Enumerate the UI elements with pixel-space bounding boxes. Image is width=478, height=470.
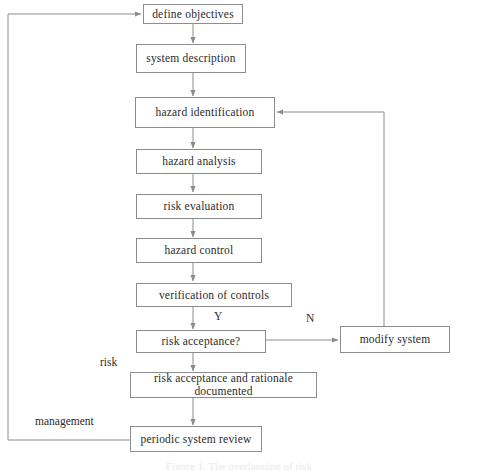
node-label: system description (146, 52, 236, 65)
node-hazard-identification[interactable]: hazard identification (135, 97, 275, 128)
node-risk-evaluation[interactable]: risk evaluation (136, 194, 262, 219)
node-verification-of-controls[interactable]: verification of controls (136, 283, 292, 307)
node-system-description[interactable]: system description (136, 44, 246, 73)
node-periodic-system-review[interactable]: periodic system review (130, 426, 262, 452)
node-hazard-control[interactable]: hazard control (136, 238, 262, 263)
node-label: risk acceptance? (162, 335, 241, 348)
figure-caption: Figure 1. The overlapping of risk (0, 460, 478, 470)
edge-label-management: management (35, 415, 94, 427)
edge-review-to-define (8, 14, 141, 440)
edge-label-yes: Y (214, 310, 222, 322)
node-define-objectives[interactable]: define objectives (143, 4, 243, 24)
node-hazard-analysis[interactable]: hazard analysis (136, 149, 262, 174)
node-risk-acceptance-documented[interactable]: risk acceptance and rationale documented (130, 372, 317, 398)
node-label: modify system (360, 333, 431, 346)
node-label: hazard identification (155, 106, 254, 119)
node-modify-system[interactable]: modify system (340, 326, 450, 353)
flowchart-canvas: define objectives system description haz… (0, 0, 478, 470)
edge-modify-to-hazard-id (277, 112, 384, 326)
node-label: hazard analysis (162, 155, 236, 168)
edge-label-risk: risk (100, 356, 117, 368)
node-label: verification of controls (159, 289, 269, 302)
node-label: risk evaluation (163, 200, 234, 213)
node-risk-acceptance[interactable]: risk acceptance? (136, 330, 266, 353)
node-label: periodic system review (140, 433, 251, 446)
node-label: define objectives (152, 8, 234, 21)
edge-label-no: N (306, 312, 314, 324)
node-label: hazard control (165, 244, 234, 257)
node-label: risk acceptance and rationale documented (131, 372, 316, 397)
